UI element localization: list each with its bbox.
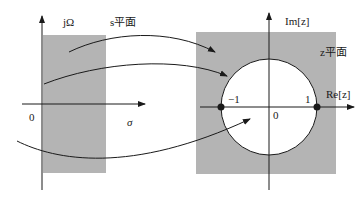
- z-plane-vertical-axis-label: Im[z]: [285, 16, 309, 27]
- s-plane-title: s平面: [110, 17, 136, 28]
- point-one: [314, 104, 321, 111]
- s-plane-vertical-axis-label: jΩ: [63, 17, 74, 28]
- z-plane-horizontal-axis-label: Re[z]: [326, 89, 350, 100]
- z-plane-origin-label: 0: [273, 110, 279, 121]
- z-plane-minus-one-label: −1: [228, 94, 240, 105]
- s-plane-origin-label: 0: [29, 112, 35, 123]
- s-plane-horizontal-axis-label: σ: [127, 117, 132, 128]
- z-plane-title: z平面: [320, 47, 347, 58]
- z-plane-one-label: 1: [305, 94, 311, 105]
- s-to-z-plane-mapping-diagram: jΩ s平面 0 σ Im[z] z平面 Re[z] −1 1 0: [0, 0, 364, 203]
- point-minus-one: [218, 104, 225, 111]
